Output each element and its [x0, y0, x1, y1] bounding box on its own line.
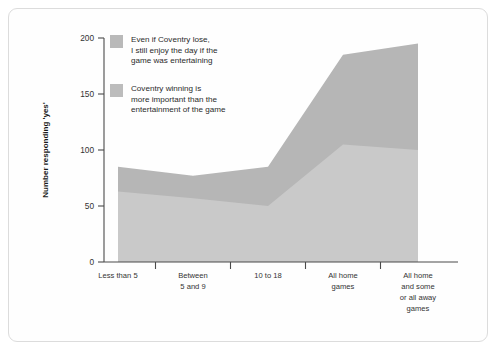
y-tick-label-50: 50 — [85, 201, 95, 211]
legend-label-1-line-1: Even if Coventry lose, — [131, 35, 210, 44]
legend-label-2-line-3: entertainment of the game — [131, 105, 226, 114]
y-tick-label-0: 0 — [89, 257, 94, 267]
chart-areas — [118, 44, 418, 262]
chart-legend: Even if Coventry lose, I still enjoy the… — [110, 35, 226, 114]
x-tick-label-2: 10 to 18 — [254, 271, 281, 280]
x-tick-label-4: or all away — [400, 293, 436, 302]
legend-swatch-1 — [110, 35, 123, 48]
x-tick-label-0: Less than 5 — [98, 271, 137, 280]
y-axis-title: Number responding 'yes' — [41, 102, 50, 197]
x-axis: Less than 5Between5 and 910 to 18All hom… — [98, 262, 458, 313]
svg-text:Number responding 'yes': Number responding 'yes' — [41, 102, 50, 197]
y-tick-label-150: 150 — [80, 89, 94, 99]
y-tick-label-200: 200 — [80, 33, 94, 43]
legend-label-1-line-3: game was entertaining — [131, 56, 212, 65]
x-tick-label-4: All home — [403, 271, 433, 280]
x-tick-label-4: and some — [401, 282, 434, 291]
y-tick-label-100: 100 — [80, 145, 94, 155]
legend-swatch-2 — [110, 84, 123, 97]
x-tick-label-1: 5 and 9 — [180, 282, 205, 291]
x-tick-label-4: games — [407, 304, 430, 313]
legend-label-2-line-2: more important than the — [131, 95, 217, 104]
x-tick-label-3: All home — [328, 271, 358, 280]
x-tick-label-3: games — [332, 282, 355, 291]
legend-label-2-line-1: Coventry winning is — [131, 84, 201, 93]
y-axis: 050100150200 — [80, 33, 104, 267]
x-tick-label-1: Between — [178, 271, 208, 280]
area-chart: 050100150200 Less than 5Between5 and 910… — [0, 0, 498, 352]
legend-label-1-line-2: I still enjoy the day if the — [131, 46, 218, 55]
